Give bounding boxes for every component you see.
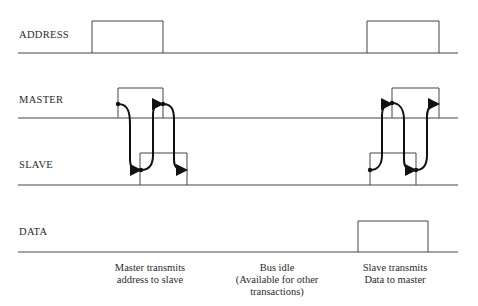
caption-slave-transmits: Slave transmits Data to master (345, 262, 445, 286)
caption-line: Data to master (345, 274, 445, 286)
data-waveform (18, 221, 458, 252)
address-label: ADDRESS (19, 29, 69, 40)
data-handshake-arrows (368, 101, 436, 172)
caption-line: address to slave (95, 274, 205, 286)
timing-diagram-svg (0, 0, 478, 306)
address-handshake-arrows (116, 102, 184, 172)
caption-line: Slave transmits (345, 262, 445, 274)
bus-handshake-timing-diagram: ADDRESS MASTER SLAVE DATA Master transmi… (0, 0, 478, 306)
caption-master-transmits: Master transmits address to slave (95, 262, 205, 286)
caption-line: transactions) (222, 286, 332, 298)
caption-line: Bus idle (222, 262, 332, 274)
data-label: DATA (19, 226, 47, 237)
slave-label: SLAVE (19, 159, 53, 170)
address-waveform (18, 21, 458, 53)
caption-line: (Available for other (222, 274, 332, 286)
master-label: MASTER (19, 94, 63, 105)
slave-waveform (18, 153, 458, 185)
caption-line: Master transmits (95, 262, 205, 274)
caption-bus-idle: Bus idle (Available for other transactio… (222, 262, 332, 298)
